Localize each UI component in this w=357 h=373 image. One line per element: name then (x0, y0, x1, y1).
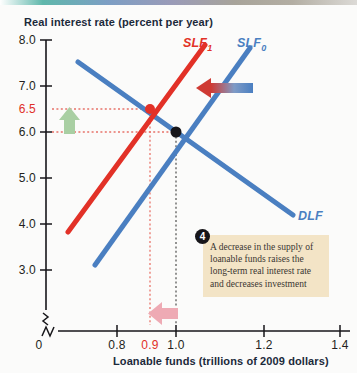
y-tick-label-8p0: 8.0 (6, 33, 36, 47)
plot-canvas (0, 0, 357, 373)
x-tick-label-1p2: 1.2 (247, 338, 281, 352)
curve-label-slf1-sub: 1 (207, 43, 212, 53)
y-axis-break (43, 313, 48, 325)
loanable-funds-decrease-arrow (148, 302, 178, 325)
new-equilibrium-point (145, 104, 155, 114)
callout-text: A decrease in the supply of loanable fun… (210, 241, 322, 290)
y-tick-label-5p0: 5.0 (6, 171, 36, 185)
y-tick-label-6p0: 6.0 (6, 125, 36, 139)
curve-label-slf0: SLF0 (237, 36, 266, 53)
y-tick-label-4p0: 4.0 (6, 217, 36, 231)
x-axis-break (42, 327, 54, 336)
callout-badge: 4 (195, 229, 210, 244)
curve-slf0 (95, 48, 250, 265)
original-equilibrium-point (171, 127, 182, 138)
curve-label-slf0-text: SLF (237, 36, 261, 50)
interest-rate-rise-arrow (59, 107, 80, 134)
curve-label-slf1-text: SLF (183, 36, 207, 50)
curve-label-slf1: SLF1 (183, 36, 212, 53)
curve-label-slf0-sub: 0 (261, 43, 266, 53)
chart-figure: Real interest rate (percent per year) Lo… (0, 0, 357, 373)
y-tick-label-3p0: 3.0 (6, 263, 36, 277)
callout-box: A decrease in the supply of loanable fun… (203, 235, 329, 297)
y-tick-label-7p0: 7.0 (6, 79, 36, 93)
curve-label-dlf: DLF (298, 209, 323, 223)
x-origin-label: 0 (22, 338, 56, 352)
x-tick-label-0p8: 0.8 (100, 338, 134, 352)
x-tick-label-1p4: 1.4 (323, 338, 357, 352)
x-tick-label-1p0: 1.0 (159, 338, 193, 352)
y-tick-label-6p5: 6.5 (6, 102, 36, 116)
